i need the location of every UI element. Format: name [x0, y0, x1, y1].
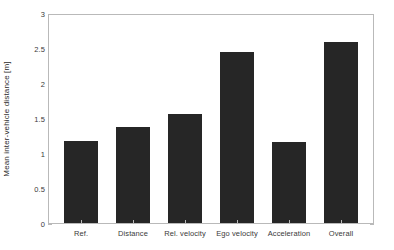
x-axis-tick-mark [289, 220, 290, 224]
y-axis-tick-mark-right [370, 224, 374, 225]
bar [64, 141, 98, 223]
x-axis-tick-mark [133, 220, 134, 224]
y-axis-tick-label: 0.5 [23, 185, 45, 194]
y-axis-title: Mean inter-vehicle distance [m] [2, 61, 11, 176]
y-axis-tick-label: 1 [23, 150, 45, 159]
bar [168, 114, 202, 223]
bar-slot [211, 15, 263, 223]
bar [324, 42, 358, 223]
y-axis-tick-label: 2 [23, 80, 45, 89]
y-axis-tick-label: 1.5 [23, 115, 45, 124]
x-axis-tick-mark [81, 220, 82, 224]
y-axis-tick-label: 3 [23, 10, 45, 19]
bar-slot [55, 15, 107, 223]
x-axis-tick-label: Overall [329, 229, 353, 238]
bar [116, 127, 150, 223]
plot-area [48, 14, 374, 224]
figure: Mean inter-vehicle distance [m] 00.511.5… [0, 0, 394, 250]
x-axis-tick-label: Acceleration [268, 229, 310, 238]
y-axis-tick-label: 0 [23, 220, 45, 229]
bar-slot [107, 15, 159, 223]
x-axis-tick-mark [237, 220, 238, 224]
y-axis-tick-mark [48, 224, 52, 225]
x-axis-tick-label: Distance [118, 229, 148, 238]
bar-slot [315, 15, 367, 223]
x-axis-tick-mark [341, 220, 342, 224]
bar [272, 142, 306, 223]
bar-slot [159, 15, 211, 223]
x-axis-tick-mark [185, 220, 186, 224]
y-axis-tick-label: 2.5 [23, 45, 45, 54]
x-axis-tick-label: Ego velocity [216, 229, 258, 238]
bar-slot [263, 15, 315, 223]
x-axis-tick-label: Ref. [74, 229, 88, 238]
bar-series [49, 15, 373, 223]
bar [220, 52, 254, 223]
x-axis-tick-label: Rel. velocity [164, 229, 206, 238]
